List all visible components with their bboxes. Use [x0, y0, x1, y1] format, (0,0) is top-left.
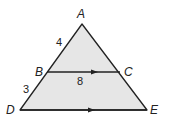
label-e: E: [150, 103, 159, 117]
triangle-diagram: A B C D E 4 3 8: [0, 0, 170, 123]
measure-ab: 4: [56, 36, 62, 48]
measure-bd: 3: [23, 83, 29, 95]
label-d: D: [6, 103, 15, 117]
label-a: A: [76, 7, 85, 21]
label-b: B: [35, 65, 43, 79]
measure-bc: 8: [77, 75, 83, 87]
label-c: C: [124, 65, 133, 79]
